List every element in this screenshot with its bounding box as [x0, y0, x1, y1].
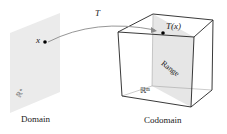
point-x-label: x	[36, 35, 40, 45]
domain-plane	[10, 13, 60, 113]
point-tx	[161, 31, 165, 35]
mapping-arrow	[48, 26, 155, 42]
mapping-label: T	[95, 8, 100, 18]
codomain-space-label: ℝᵐ	[140, 86, 150, 95]
domain-caption: Domain	[21, 114, 50, 124]
codomain-caption: Codomain	[144, 115, 182, 125]
point-x	[43, 40, 47, 44]
point-tx-label: T(x)	[166, 21, 181, 31]
